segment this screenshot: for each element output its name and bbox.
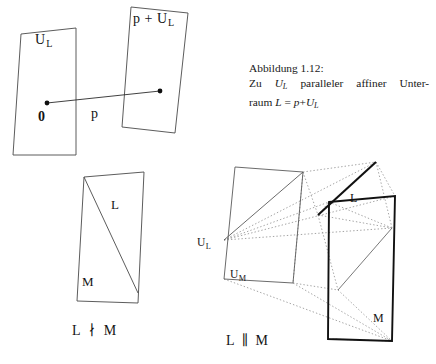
caption-figure-number: Abbildung 1.12: <box>249 61 429 76</box>
label-middle-line-l: L <box>111 198 119 211</box>
plane-ul-diagonal <box>224 172 303 240</box>
line-m-inside-plane <box>338 228 392 290</box>
origin-point-dot <box>45 101 50 106</box>
caption-not-parallel: L ∤ M <box>72 324 119 338</box>
label-bottom-um: UM <box>230 269 246 283</box>
construction-dotted-lines <box>224 162 395 341</box>
plane-ul-um-outline <box>224 167 303 283</box>
caption-line-two: Zu UL paralleler affiner Unter- <box>249 76 429 95</box>
bottom-diagram-group <box>224 162 395 341</box>
label-plane-ul: UL <box>35 33 53 49</box>
top-diagram-group <box>13 7 188 155</box>
line-l-bold <box>318 162 376 215</box>
vector-p-line <box>47 91 160 103</box>
label-bottom-line-l: L <box>350 192 357 204</box>
label-origin-zero: 0 <box>38 110 45 124</box>
caption-parallel: L ∥ M <box>226 334 270 348</box>
label-plane-p-plus-ul: p + UL <box>133 12 175 28</box>
caption-math-ul: UL <box>275 76 288 95</box>
figure-caption: Abbildung 1.12: Zu UL paralleler affiner… <box>249 61 429 114</box>
plane-m-bold-outline <box>328 196 395 341</box>
label-vector-p: p <box>91 107 98 121</box>
figure-canvas <box>0 0 436 364</box>
caption-line-three: raum L = p+UL <box>249 95 429 114</box>
translated-point-dot <box>158 89 163 94</box>
label-bottom-line-m: M <box>373 312 384 324</box>
label-bottom-ul: UL <box>197 237 211 251</box>
label-middle-plane-m: M <box>82 275 94 288</box>
